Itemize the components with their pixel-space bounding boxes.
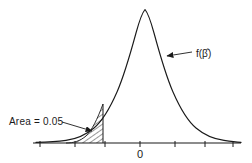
density-callout-arrow [167,52,192,56]
normal-density-curve [36,10,241,143]
area-callout-label: Area = 0.05 [9,116,63,127]
distribution-figure: 0 Area = 0.05 f(β̂) [0,0,252,163]
origin-tick-label: 0 [137,148,143,160]
x-axis [33,141,241,147]
distribution-plot-canvas: 0 Area = 0.05 f(β̂) [0,0,252,163]
density-label-suffix: ) [208,48,211,59]
density-callout: f(β̂) [167,48,211,59]
area-callout-arrow [62,122,92,131]
shaded-tail-region [66,104,103,143]
density-callout-label: f(β̂) [196,48,211,59]
area-callout: Area = 0.05 [9,116,92,131]
